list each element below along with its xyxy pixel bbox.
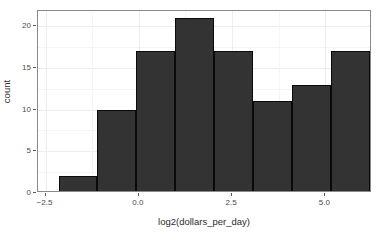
histogram-bar <box>175 18 214 192</box>
x-tick-label: 0.0 <box>132 198 143 207</box>
y-tick-label: 5 <box>3 146 31 155</box>
x-tick-mark <box>324 193 325 196</box>
histogram-bar <box>214 51 253 192</box>
histogram-bar <box>253 101 292 192</box>
y-tick-mark <box>33 109 36 110</box>
y-tick-mark <box>33 67 36 68</box>
y-tick-mark <box>33 192 36 193</box>
histogram-bar <box>59 176 98 192</box>
x-tick-mark <box>45 193 46 196</box>
histogram-bar <box>292 85 331 193</box>
y-axis-title: count <box>1 70 12 114</box>
gridline-minor-x <box>92 11 93 191</box>
x-tick-label: −2.5 <box>37 198 53 207</box>
y-tick-label: 0 <box>3 188 31 197</box>
y-tick-mark <box>33 25 36 26</box>
histogram-bar <box>370 151 371 192</box>
plot-panel <box>37 10 371 192</box>
histogram-bar <box>136 51 175 192</box>
histogram-bar <box>97 110 136 193</box>
x-tick-mark <box>231 193 232 196</box>
x-tick-mark <box>138 193 139 196</box>
y-tick-label: 20 <box>3 21 31 30</box>
gridline-major-x <box>46 11 47 191</box>
histogram-plot: 05101520−2.50.02.55.0 log2(dollars_per_d… <box>0 0 382 239</box>
histogram-bar <box>331 51 370 192</box>
x-axis-title: log2(dollars_per_day) <box>37 216 371 227</box>
x-tick-label: 2.5 <box>226 198 237 207</box>
y-tick-mark <box>33 150 36 151</box>
x-tick-label: 5.0 <box>319 198 330 207</box>
